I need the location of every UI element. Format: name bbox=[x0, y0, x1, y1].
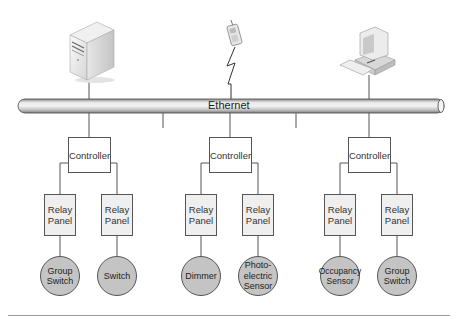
relay-panel-2b: Relay Panel bbox=[242, 194, 274, 236]
bus-drops bbox=[89, 113, 369, 137]
server-tower-icon bbox=[70, 22, 115, 83]
device-photoelectric-sensor: Photo- electric Sensor bbox=[238, 256, 278, 296]
wireless-lightning-icon bbox=[227, 47, 235, 100]
device-occupancy-sensor: Occupancy Sensor bbox=[320, 256, 360, 296]
relay-panel-1b: Relay Panel bbox=[101, 194, 133, 236]
device-dimmer: Dimmer bbox=[181, 256, 221, 296]
controller-2: Controller bbox=[209, 137, 252, 173]
desktop-computer-icon bbox=[340, 27, 395, 75]
relay-panel-2a: Relay Panel bbox=[185, 194, 217, 236]
bottom-divider bbox=[8, 315, 450, 316]
controller-1: Controller bbox=[68, 137, 111, 173]
device-group-switch-1: Group Switch bbox=[40, 256, 80, 296]
relay-device-links bbox=[60, 236, 397, 256]
mobile-phone-icon bbox=[227, 20, 243, 46]
device-group-switch-2: Group Switch bbox=[377, 256, 417, 296]
relay-panel-3b: Relay Panel bbox=[381, 194, 413, 236]
controller-3: Controller bbox=[348, 137, 391, 173]
device-switch: Switch bbox=[97, 256, 137, 296]
relay-panel-1a: Relay Panel bbox=[44, 194, 76, 236]
device-uplinks bbox=[89, 75, 369, 100]
relay-panel-3a: Relay Panel bbox=[324, 194, 356, 236]
ethernet-label: Ethernet bbox=[208, 99, 250, 111]
